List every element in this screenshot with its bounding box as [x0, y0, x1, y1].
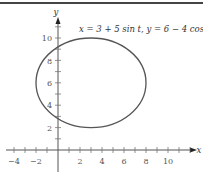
x-axis-label: x — [197, 145, 202, 155]
y-axis-label: y — [53, 7, 59, 17]
x-tick-label: −2 — [30, 157, 42, 166]
x-tick-label: 8 — [143, 157, 148, 166]
equation-label: x = 3 + 5 sin t, y = 6 − 4 cos t — [79, 24, 203, 34]
y-tick-label: 2 — [47, 124, 52, 133]
ellipse-curve — [36, 38, 146, 128]
x-tick-label: 4 — [99, 157, 104, 166]
y-tick-label: 4 — [47, 101, 52, 110]
x-tick-label: 2 — [77, 157, 82, 166]
y-axis-arrow-icon — [56, 17, 61, 24]
y-tick-label: 8 — [47, 57, 52, 66]
y-tick-label: 6 — [47, 79, 52, 88]
x-tick-label: 6 — [121, 157, 126, 166]
x-tick-label: 10 — [163, 157, 173, 166]
y-tick-label: 10 — [42, 34, 52, 43]
x-tick-label: −4 — [8, 157, 20, 166]
chart-plot: −4 −2 2 4 6 8 10 2 4 6 8 10 y x x = 3 + … — [0, 0, 203, 174]
